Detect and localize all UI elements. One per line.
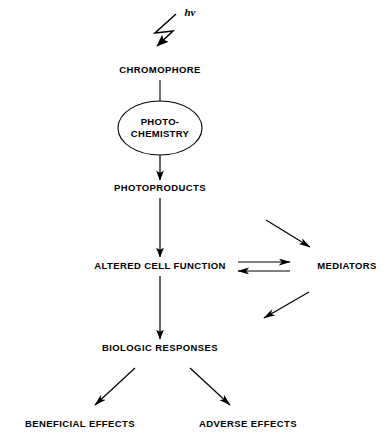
photon-bolt-arrow bbox=[155, 14, 176, 46]
photochemistry-line-2: CHEMISTRY bbox=[131, 128, 189, 140]
node-biologic-responses: BIOLOGIC RESPONSES bbox=[102, 343, 218, 353]
node-chromophore: CHROMOPHORE bbox=[119, 65, 200, 75]
photobiology-flowchart: hν CHROMOPHORE PHOTO- CHEMISTRY PHOTOPRO… bbox=[0, 0, 392, 443]
node-photochemistry: PHOTO- CHEMISTRY bbox=[131, 116, 189, 140]
node-mediators: MEDIATORS bbox=[317, 261, 377, 271]
biologic-to-beneficial-arrow bbox=[95, 368, 135, 405]
altered-mediators-equilibrium-arrows bbox=[238, 262, 290, 271]
radiation-label: hν bbox=[185, 6, 196, 18]
from-mediators-arrow bbox=[264, 292, 309, 318]
node-beneficial-effects: BENEFICIAL EFFECTS bbox=[25, 419, 135, 429]
into-mediators-arrow bbox=[266, 220, 310, 247]
photochemistry-line-1: PHOTO- bbox=[131, 116, 189, 128]
biologic-to-adverse-arrow bbox=[190, 368, 230, 405]
node-altered-cell-function: ALTERED CELL FUNCTION bbox=[94, 261, 226, 271]
node-adverse-effects: ADVERSE EFFECTS bbox=[199, 419, 297, 429]
node-photoproducts: PHOTOPRODUCTS bbox=[114, 183, 206, 193]
